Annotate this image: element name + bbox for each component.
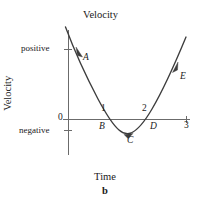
- y-tick-label-positive: positive: [21, 44, 50, 53]
- velocity-time-figure: Velocity Velocity Time b positive 0 nega…: [0, 0, 201, 202]
- y-tick-label-negative: negative: [19, 126, 50, 135]
- data-point-label-d: D: [150, 122, 157, 132]
- x-axis-label: Time: [30, 172, 180, 183]
- data-point-label-a: A: [83, 53, 89, 63]
- figure-caption: b: [30, 186, 180, 197]
- x-tick-label-1: 1: [101, 104, 106, 114]
- direction-arrows: [76, 47, 178, 139]
- y-tick-label-zero: 0: [58, 113, 63, 123]
- x-tick-label-3: 3: [184, 121, 189, 131]
- velocity-curve: [66, 27, 187, 134]
- y-axis-label: Velocity: [3, 62, 14, 124]
- x-tick-label-2: 2: [142, 104, 147, 114]
- data-point-label-e: E: [180, 72, 186, 82]
- data-point-label-c: C: [127, 136, 133, 146]
- chart-title: Velocity: [0, 10, 201, 21]
- curve-path: [66, 27, 187, 134]
- data-point-label-b: B: [99, 122, 105, 132]
